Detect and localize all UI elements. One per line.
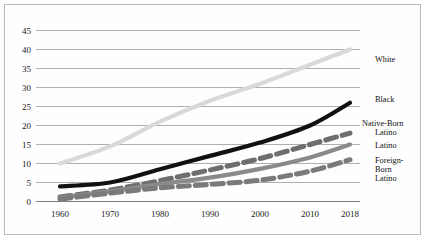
series-label-white: White	[375, 55, 396, 64]
series-label-foreign-born-latino-3: Latino	[375, 174, 397, 183]
series-label-foreign-born-latino-1: Foreign-	[375, 156, 404, 165]
data-series-layer	[60, 50, 350, 200]
y-tick-25: 25	[22, 102, 32, 112]
y-tick-0: 0	[27, 197, 32, 207]
series-label-native-born-latino-2: Latino	[375, 128, 397, 137]
line-chart: 45 40 35 30 25 20 15 10 5 0 1960 1970 19…	[0, 0, 433, 246]
series-line-native-born-latino	[60, 133, 350, 197]
x-axis-ticklabels: 1960 1970 1980 1990 2000 2010 2018	[51, 209, 360, 219]
y-tick-30: 30	[22, 83, 32, 93]
series-labels: White Black Native-Born Latino Latino Fo…	[362, 55, 404, 183]
y-tick-40: 40	[22, 45, 32, 55]
x-tick-2010: 2010	[301, 209, 320, 219]
y-tick-45: 45	[22, 26, 32, 36]
x-tick-2000: 2000	[251, 209, 270, 219]
series-label-foreign-born-latino-2: Born	[375, 165, 392, 174]
y-tick-35: 35	[22, 64, 32, 74]
y-tick-15: 15	[22, 140, 32, 150]
x-tick-1960: 1960	[51, 209, 70, 219]
chart-container: 45 40 35 30 25 20 15 10 5 0 1960 1970 19…	[0, 0, 433, 246]
y-axis-ticklabels: 45 40 35 30 25 20 15 10 5 0	[22, 26, 32, 207]
y-tick-10: 10	[22, 159, 32, 169]
x-tick-1970: 1970	[101, 209, 120, 219]
x-tick-1980: 1980	[151, 209, 170, 219]
x-tick-2018: 2018	[341, 209, 360, 219]
y-tick-5: 5	[27, 178, 32, 188]
gridlines	[36, 31, 360, 202]
series-label-latino: Latino	[375, 141, 397, 150]
x-tick-1990: 1990	[201, 209, 220, 219]
series-label-native-born-latino-1: Native-Born	[362, 119, 404, 128]
y-tick-20: 20	[22, 121, 32, 131]
series-label-black: Black	[375, 95, 395, 104]
